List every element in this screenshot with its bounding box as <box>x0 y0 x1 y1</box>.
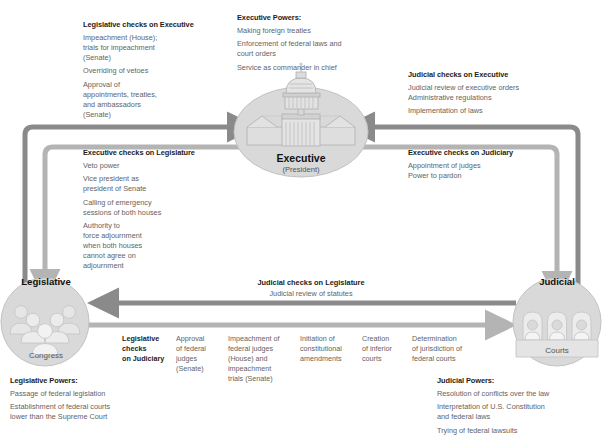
block-heading: Executive checks on Legislature <box>83 148 233 158</box>
block-judicial-checks-on-executive: Judicial checks on Executive Judicial re… <box>408 70 588 120</box>
node-label-legislative: Legislative <box>0 276 92 287</box>
column-initiation-of-constitutional-amendments: Initiation of constitutional amendments <box>300 334 360 364</box>
column-impeachment-of-federal-judges: Impeachment of federal judges (House) an… <box>228 334 296 384</box>
list-item: Interpretation of U.S. Constitution and … <box>437 402 602 422</box>
list-item: Veto power <box>83 161 233 171</box>
list-item: Vice president as president of Senate <box>83 174 233 194</box>
block-heading: Legislative checks on Executive <box>83 20 233 30</box>
node-sublabel-legislative: Congress <box>0 351 92 360</box>
block-body: Impeachment (House); trials for impeachm… <box>83 33 233 120</box>
column-determination-of-jurisdiction: Determination of jurisdiction of federal… <box>412 334 494 364</box>
block-judicial-checks-on-legislature: Judicial checks on Legislature Judicial … <box>202 278 420 298</box>
node-label-executive: Executive <box>241 152 361 164</box>
list-item: Resolution of conflicts over the law <box>437 389 602 399</box>
block-legislative-powers: Legislative Powers: Passage of federal l… <box>10 376 180 426</box>
block-executive-checks-on-judiciary: Executive checks on Judiciary Appointmen… <box>408 148 583 184</box>
block-body: Resolution of conflicts over the law Int… <box>437 389 602 436</box>
block-heading: Judicial checks on Legislature <box>202 278 420 287</box>
block-judicial-powers: Judicial Powers: Resolution of conflicts… <box>437 376 602 439</box>
block-body: Appointment of judges Power to pardon <box>408 161 583 181</box>
block-legislative-checks-on-judiciary-heading: Legislative checks on Judiciary <box>122 334 182 364</box>
block-subtext: Judicial review of statutes <box>202 289 420 298</box>
block-executive-checks-on-legislature: Executive checks on Legislature Veto pow… <box>83 148 233 275</box>
block-heading: Executive checks on Judiciary <box>408 148 583 158</box>
list-item: Trying of federal lawsuits <box>437 426 602 436</box>
block-body: Judicial review of executive orders Admi… <box>408 83 588 116</box>
block-heading: Legislative Powers: <box>10 376 180 386</box>
list-item: Overriding of vetoes <box>83 66 233 76</box>
column-approval-of-federal-judges: Approval of federal judges (Senate) <box>176 334 224 374</box>
node-sublabel-judicial: Courts <box>511 346 602 355</box>
block-body: Passage of federal legislation Establish… <box>10 389 180 422</box>
block-executive-powers: Executive Powers: Making foreign treatie… <box>237 13 409 76</box>
block-body: Veto power Vice president as president o… <box>83 161 233 271</box>
list-item: Impeachment (House); trials for impeachm… <box>83 33 233 63</box>
list-item: Implementation of laws <box>408 106 588 116</box>
list-item: Making foreign treaties <box>237 26 409 36</box>
list-item: Authority to force adjournment when both… <box>83 221 233 271</box>
node-label-judicial: Judicial <box>511 276 602 287</box>
list-item: Passage of federal legislation <box>10 389 180 399</box>
list-item: Appointment of judges Power to pardon <box>408 161 583 181</box>
block-legislative-checks-on-executive: Legislative checks on Executive Impeachm… <box>83 20 233 123</box>
column-creation-of-inferior-courts: Creation of inferior courts <box>362 334 410 364</box>
block-heading: Judicial Powers: <box>437 376 602 386</box>
list-item: Judicial review of executive orders Admi… <box>408 83 588 103</box>
block-body: Making foreign treaties Enforcement of f… <box>237 26 409 73</box>
group-of-people-icon <box>10 306 80 356</box>
block-heading: Executive Powers: <box>237 13 409 23</box>
list-item: Approval of appointments, treaties, and … <box>83 80 233 120</box>
block-heading: Judicial checks on Executive <box>408 70 588 80</box>
node-sublabel-executive: (President) <box>241 165 361 174</box>
list-item: Service as commander in chief <box>237 63 409 73</box>
list-item: Calling of emergency sessions of both ho… <box>83 198 233 218</box>
list-item: Establishment of federal courts lower th… <box>10 402 180 422</box>
list-item: Enforcement of federal laws and court or… <box>237 39 409 59</box>
